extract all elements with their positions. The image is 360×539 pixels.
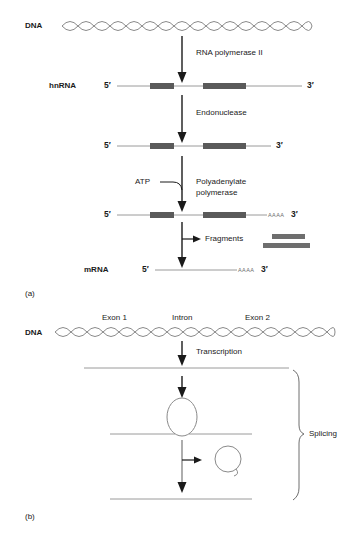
splicing-bracket xyxy=(0,0,360,539)
splicing-label: Splicing xyxy=(309,429,337,439)
figure-canvas: DNA RNA polymerase II hnRNA 5′ 3′ Endonu… xyxy=(0,0,360,539)
panel-b-id: (b) xyxy=(25,512,35,522)
